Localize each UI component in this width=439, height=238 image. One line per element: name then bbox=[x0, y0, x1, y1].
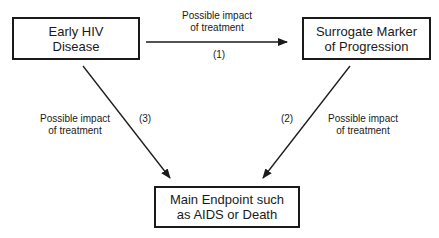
edge-1-number: (1) bbox=[204, 49, 234, 61]
label-line: Possible impact bbox=[30, 113, 120, 125]
edge-2-number: (2) bbox=[272, 113, 302, 125]
label-line: of treatment bbox=[172, 22, 262, 34]
label-line: Possible impact bbox=[172, 10, 262, 22]
node-early-hiv-disease: Early HIV Disease bbox=[12, 17, 140, 60]
edge-3-number: (3) bbox=[130, 113, 160, 125]
node-line: as AIDS or Death bbox=[177, 207, 277, 222]
label-line: of treatment bbox=[318, 125, 408, 137]
label-line: of treatment bbox=[30, 125, 120, 137]
label-line: Possible impact bbox=[318, 113, 408, 125]
node-line: of Progression bbox=[325, 39, 409, 54]
edge-2-label: Possible impact of treatment bbox=[318, 113, 408, 137]
node-surrogate-marker: Surrogate Marker of Progression bbox=[302, 17, 431, 60]
node-line: Early HIV bbox=[49, 24, 104, 39]
edge-1-label: Possible impact of treatment bbox=[172, 10, 262, 34]
node-line: Disease bbox=[53, 39, 100, 54]
node-line: Main Endpoint such bbox=[170, 192, 284, 207]
node-main-endpoint: Main Endpoint such as AIDS or Death bbox=[154, 186, 300, 228]
edge-3-label: Possible impact of treatment bbox=[30, 113, 120, 137]
node-line: Surrogate Marker bbox=[316, 24, 417, 39]
